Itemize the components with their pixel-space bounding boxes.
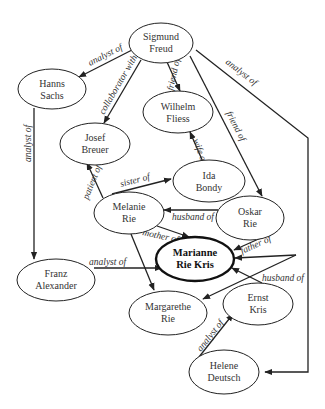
node-label: Marianne (173, 247, 218, 258)
edge-label-freud-helene: analyst of (224, 57, 261, 89)
node-label: Wilhelm (161, 101, 196, 112)
node-label: Bondy (196, 182, 223, 193)
edge-label-ernst-marianne: husband of (262, 273, 305, 283)
node-helene-deutsch: Helene Deutsch (189, 350, 259, 394)
node-label: Sigmund (143, 31, 179, 42)
node-margarethe-rie: Margarethe Rie (129, 291, 207, 335)
edge-label-freud-oskar: friend of (224, 109, 248, 144)
node-label: Josef (85, 132, 106, 143)
node-ida-bondy: Ida Bondy (173, 160, 245, 202)
node-hanns-sachs: Hanns Sachs (18, 69, 86, 109)
edge-label-franz-marianne: analyst of (89, 257, 128, 267)
edge-label-freud-breuer: collaborator with (97, 53, 139, 116)
node-label: Melanie (113, 201, 146, 212)
node-ernst-kris: Ernst Kris (223, 283, 293, 325)
node-label: Ida (203, 170, 216, 181)
node-label: Rie (161, 313, 175, 324)
node-label: Freud (149, 43, 172, 54)
node-label: Rie (122, 213, 136, 224)
edge-label-melanie-bondy: sister of (119, 171, 152, 189)
node-melanie-rie: Melanie Rie (94, 192, 164, 234)
node-label: Helene (210, 360, 239, 371)
node-josef-breuer: Josef Breuer (60, 123, 130, 165)
edge-label-sachs-franz: analyst of (23, 123, 33, 162)
diagram-canvas: analyst of collaborator with friend of f… (0, 0, 325, 409)
node-oskar-rie: Oskar Rie (216, 196, 284, 240)
node-label: Rie (243, 218, 257, 229)
node-label: Hanns (39, 78, 65, 89)
edge-melanie-margarethe (131, 234, 154, 290)
node-franz-alexander: Franz Alexander (17, 259, 95, 301)
edge-bracket-marianne (235, 255, 296, 258)
edge-label-melanie-breuer: patient of (80, 162, 104, 201)
node-label: Margarethe (145, 301, 191, 312)
node-label: Fliess (166, 113, 189, 124)
node-marianne-rie-kris: Marianne Rie Kris (156, 237, 234, 281)
edge-ernst-marianne (232, 268, 262, 283)
node-label: Kris (249, 304, 266, 315)
node-label: Deutsch (208, 372, 241, 383)
node-wilhelm-fliess: Wilhelm Fliess (143, 91, 213, 133)
node-label: Ernst (247, 292, 268, 303)
edge-label-oskar-melanie: husband of (172, 212, 215, 222)
node-label: Alexander (35, 280, 77, 291)
node-label: Sachs (40, 90, 63, 101)
node-label: Breuer (81, 144, 109, 155)
node-sigmund-freud: Sigmund Freud (129, 23, 193, 63)
node-label: Oskar (238, 206, 263, 217)
node-label: Franz (45, 268, 68, 279)
relationship-diagram: analyst of collaborator with friend of f… (0, 0, 325, 409)
node-label: Rie Kris (176, 259, 214, 270)
